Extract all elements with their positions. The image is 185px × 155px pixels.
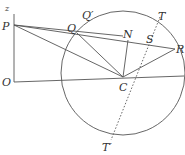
line-C-Q <box>77 33 123 77</box>
label-T-prime: T′ <box>102 141 112 154</box>
label-z: z <box>4 4 10 13</box>
label-R: R <box>175 43 184 56</box>
line-O-C <box>14 76 184 82</box>
label-O: O <box>2 76 11 89</box>
label-N: N <box>122 28 133 41</box>
label-T: T <box>158 10 167 23</box>
label-Q: Q <box>67 22 76 35</box>
geometry-diagram: z P O Q Q′ N S T R C T′ <box>0 0 185 155</box>
label-S: S <box>146 33 154 46</box>
label-C: C <box>119 81 128 94</box>
label-P: P <box>1 20 10 33</box>
line-C-R <box>123 49 175 77</box>
line-C-N <box>123 40 128 77</box>
label-Q-prime: Q′ <box>82 9 94 22</box>
